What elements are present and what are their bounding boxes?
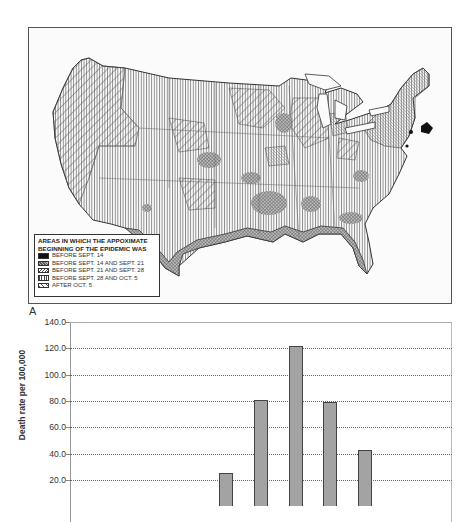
legend-item-label: BEFORE SEPT. 28 AND OCT. 5 [52,275,138,282]
vertical-lines-swatch-icon [38,275,49,281]
y-tick-label: 20.0 [36,475,66,485]
y-tick-label: 100.0 [36,370,66,380]
bar [358,450,372,507]
legend-item: BEFORE SEPT. 14 [38,252,156,259]
legend-item-label: BEFORE SEPT. 14 AND SEPT. 21 [52,260,144,267]
map-legend: AREAS IN WHICH THE APPOXIMATE BEGINNING … [34,234,160,297]
gridline [70,348,452,349]
y-tick-label: 120.0 [36,343,66,353]
legend-item: BEFORE SEPT. 21 AND SEPT. 28 [38,267,156,274]
y-tick-label: 80.0 [36,396,66,406]
y-tick-mark [66,322,70,323]
legend-item-label: BEFORE SEPT. 14 [52,252,103,259]
fine-diagonal-swatch-icon [38,268,49,274]
us-epidemic-map: AREAS IN WHICH THE APPOXIMATE BEGINNING … [28,27,452,304]
bar [254,400,268,507]
crosshatch-swatch-icon [38,261,49,267]
legend-title-line1: AREAS IN WHICH THE APPOXIMATE [38,237,156,245]
bar [219,473,233,506]
panel-label: A [29,305,36,317]
y-tick-label: 140.0 [36,317,66,327]
legend-title-line2: BEGINNING OF THE EPIDEMIC WAS [38,245,156,253]
bar [323,402,337,506]
y-tick-label: 60.0 [36,422,66,432]
legend-item-label: AFTER OCT. 5 [52,282,92,289]
legend-item: BEFORE SEPT. 14 AND SEPT. 21 [38,260,156,267]
solid-black-swatch-icon [38,253,49,259]
gridline [70,375,452,376]
legend-item: AFTER OCT. 5 [38,282,156,289]
legend-item: BEFORE SEPT. 28 AND OCT. 5 [38,274,156,281]
legend-item-label: BEFORE SEPT. 21 AND SEPT. 28 [52,267,144,274]
wide-diagonal-swatch-icon [38,283,49,289]
y-tick-label: 40.0 [36,449,66,459]
y-axis-title: Death rate per 100,000 [17,350,27,440]
bar [289,346,303,506]
